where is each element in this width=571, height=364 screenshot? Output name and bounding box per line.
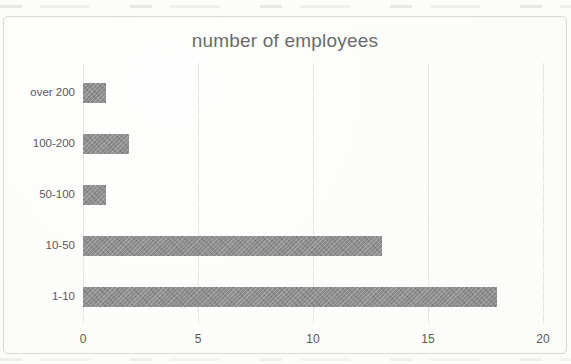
gridline-x-15 bbox=[428, 63, 429, 323]
bar-100-200 bbox=[83, 134, 129, 154]
bar-50-100 bbox=[83, 185, 106, 205]
x-tick-label: 5 bbox=[195, 332, 202, 346]
category-label: 10-50 bbox=[4, 239, 75, 251]
x-tick-label: 10 bbox=[306, 332, 319, 346]
scan-artifact-bottom bbox=[0, 358, 571, 361]
scan-artifact-top bbox=[0, 5, 571, 8]
gridline-x-5 bbox=[198, 63, 199, 323]
x-tick-label: 15 bbox=[421, 332, 434, 346]
bar-10-50 bbox=[83, 236, 382, 256]
category-label: over 200 bbox=[4, 86, 75, 98]
category-label: 100-200 bbox=[4, 137, 75, 149]
bar-over-200 bbox=[83, 83, 106, 103]
bar-1-10 bbox=[83, 287, 497, 307]
bar-chart: number of employees 05101520over 200100-… bbox=[3, 16, 567, 354]
plot-area: 05101520over 200100-20050-10010-501-10 bbox=[4, 17, 566, 353]
x-tick-label: 20 bbox=[536, 332, 549, 346]
gridline-x-20 bbox=[543, 63, 544, 323]
x-tick-label: 0 bbox=[80, 332, 87, 346]
category-label: 1-10 bbox=[4, 290, 75, 302]
category-label: 50-100 bbox=[4, 188, 75, 200]
gridline-x-10 bbox=[313, 63, 314, 323]
